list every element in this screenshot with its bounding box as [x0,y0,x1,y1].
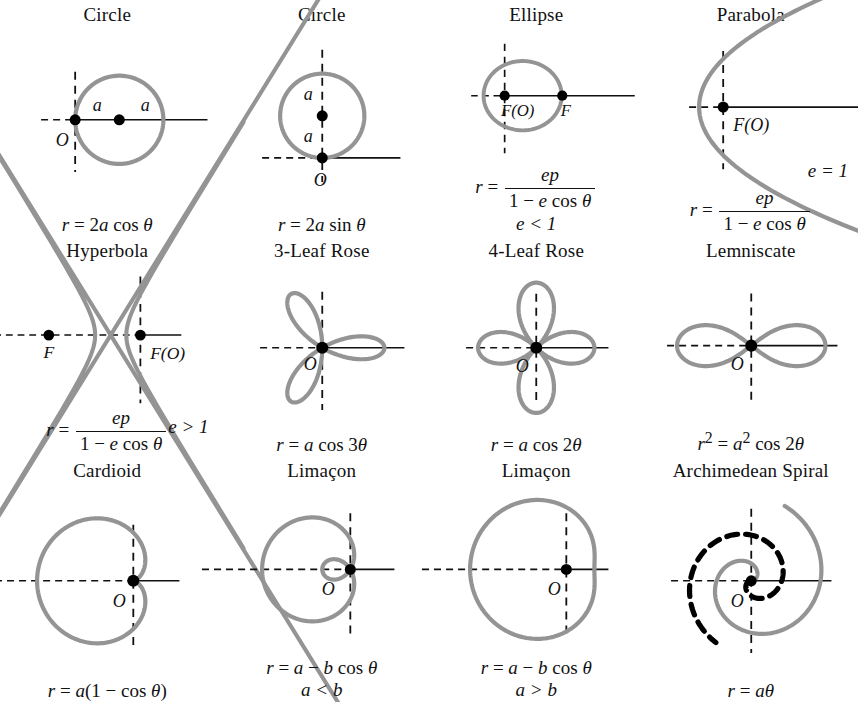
panel-cardioid: CardioidOr = a(1 − cos θ) [0,456,215,702]
panel-condition: e < 1 [516,213,556,236]
panel-hyperbola: HyperbolaFF(O)r = ep1 − e cos θe > 1 [0,236,215,456]
panel-title: Limaçon [502,460,571,482]
panel-title: Archimedean Spiral [673,460,829,482]
plot-area: aaO [0,26,215,214]
curve-plot-cardioid: O [0,482,215,680]
panel-title: Lemniscate [706,240,796,262]
length-label-a-2: a [141,95,150,115]
panel-equation: r = a − b cos θ [266,657,377,679]
focus-label-2: F [560,101,572,120]
panel-equation: r = a − b cos θ [481,657,592,679]
focus-point-origin [717,102,728,113]
curve-plot-lemniscate: O [644,262,858,429]
length-label-a-2: a [303,126,312,146]
origin-point [745,575,756,586]
origin-point [344,564,355,575]
panel-equation: r = ep1 − e cos θ [475,165,597,213]
origin-point [316,342,328,354]
panel-title: Ellipse [509,4,563,26]
panel-eccentricity-note: e > 1 [168,416,208,438]
panel-equation: r = 2a sin θ [278,214,366,236]
curve-plot-archimedean-spiral: O [644,482,858,680]
origin-point [745,340,757,352]
panel-condition: a < b [301,679,342,702]
panel-parabola: ParabolaF(O)r = ep1 − e cos θe = 1 [644,0,858,236]
panel-title: Hyperbola [66,240,148,262]
focus-point-origin [135,330,146,341]
plot-area: O [215,262,430,434]
panel-equation: r = a cos 2θ [491,434,582,456]
focus-point-origin [500,91,510,101]
origin-label: O [113,591,126,611]
origin-label: O [730,354,743,374]
panel-title: Cardioid [73,460,141,482]
panel-equation: r = a(1 − cos θ) [48,680,167,702]
panel-eccentricity-note: e = 1 [808,160,848,182]
origin-label: O [548,579,561,599]
origin-point [530,342,542,354]
center-point [316,110,327,121]
panel-rose4: 4-Leaf RoseOr = a cos 2θ [429,236,644,456]
curve-plot-ellipse: F(O)F [429,26,644,165]
plot-area: FF(O) [0,262,215,408]
origin-point [127,575,139,587]
focus-label-1: F(O) [500,101,535,120]
plot-area: F(O)F [429,26,644,165]
plot-area: O [644,262,858,429]
focus-point-second [43,330,54,341]
panel-limacon-loop: LimaçonOr = a − b cos θa < b [215,456,430,702]
curve-plot-limacon-loop: O [215,482,430,657]
plot-area: O [429,482,644,657]
origin-label: O [56,130,69,150]
origin-label: O [730,591,743,611]
origin-label: O [313,170,326,190]
panel-equation: r = aθ [728,680,774,702]
center-point [114,114,125,125]
panel-equation: r = 2a cos θ [62,214,153,236]
plot-area: O [429,262,644,434]
spiral-gray [714,506,820,634]
curve-plot-limacon-dimple: O [429,482,644,657]
curve-plot-rose3: O [215,262,430,434]
panel-equation: r2 = a2 cos 2θ [697,429,804,456]
panel-archimedean-spiral: Archimedean SpiralOr = aθ [644,456,858,702]
origin-point [316,152,327,163]
panel-equation: r = a cos 3θ [276,434,367,456]
curve-plot-circle-cos: aaO [0,26,215,214]
curve-plot-hyperbola: FF(O) [0,262,215,408]
focus-label-1: F(O) [732,115,769,136]
panel-ellipse: EllipseF(O)Fr = ep1 − e cos θe < 1 [429,0,644,236]
panel-title: 4-Leaf Rose [488,240,584,262]
origin-point [561,564,572,575]
origin-label: O [303,354,316,374]
plot-area: O [0,482,215,680]
polar-curves-reference-figure: CircleaaOr = 2a cos θCircleaaOr = 2a sin… [0,0,858,702]
focus-label-1: F [42,342,54,362]
panel-rose3: 3-Leaf RoseOr = a cos 3θ [215,236,430,456]
panel-title: 3-Leaf Rose [274,240,370,262]
panel-circle-cos: CircleaaOr = 2a cos θ [0,0,215,236]
plot-area: O [644,482,858,680]
panel-equation: r = ep1 − e cos θ [690,188,812,236]
length-label-a-1: a [303,84,312,104]
plot-area: aaO [215,26,430,214]
panel-condition: a > b [516,679,557,702]
focus-point-second [557,91,567,101]
curve-plot-circle-sin: aaO [215,26,430,214]
length-label-a-1: a [93,95,102,115]
plot-area: O [215,482,430,657]
rose-petal [287,293,322,348]
curve-plot-rose4: O [429,262,644,434]
panel-lemniscate: LemniscateOr2 = a2 cos 2θ [644,236,858,456]
panel-limacon-dimple: LimaçonOr = a − b cos θa > b [429,456,644,702]
panel-equation: r = ep1 − e cos θ [46,408,168,456]
focus-label-2: F(O) [149,343,185,363]
panel-title: Limaçon [287,460,356,482]
origin-point [70,114,81,125]
origin-label: O [321,579,334,599]
panel-title: Circle [83,4,131,26]
origin-label: O [516,356,529,376]
